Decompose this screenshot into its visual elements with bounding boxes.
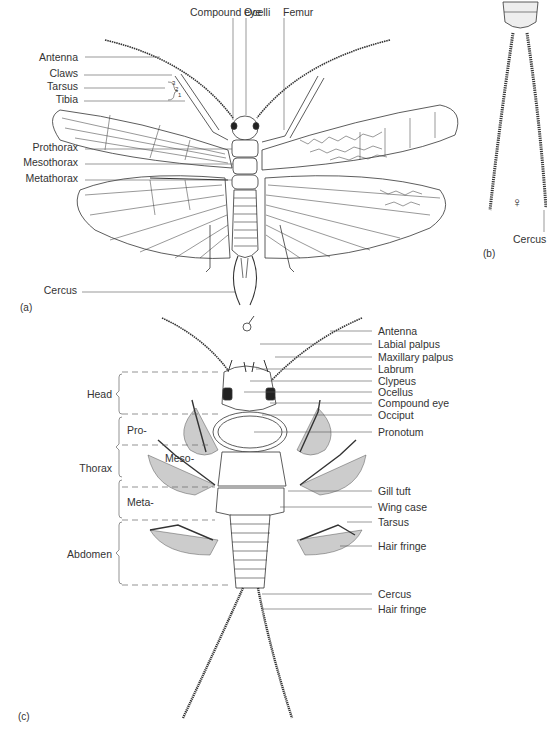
label-claws: Claws [49, 67, 78, 79]
region-abdomen: Abdomen [67, 548, 112, 560]
label-c-compound-eye: Compound eye [378, 397, 449, 409]
stonefly-diagram [0, 0, 547, 734]
metathorax [232, 175, 258, 189]
adult-male-drawing [53, 40, 458, 305]
antenna-left [105, 40, 233, 118]
hindwing-right [265, 176, 446, 259]
label-c-antenna: Antenna [378, 325, 417, 337]
label-maxillary-palpus: Maxillary palpus [378, 351, 453, 363]
label-cercus-a: Cercus [44, 284, 77, 296]
label-prothorax: Prothorax [32, 141, 78, 153]
region-thorax: Thorax [79, 462, 112, 474]
panel-tag-b: (b) [483, 248, 495, 259]
label-cercus-b: Cercus [513, 233, 546, 245]
nymph-abdomen [230, 515, 270, 588]
label-tibia: Tibia [56, 93, 78, 105]
nymph-cercus-left [183, 588, 243, 718]
label-tarsus: Tarsus [47, 80, 78, 92]
segment-meso: Meso- [165, 452, 194, 464]
label-c-tarsus: Tarsus [378, 516, 409, 528]
nymph-antenna-right [270, 318, 362, 382]
nymph-metathorax [216, 488, 284, 517]
label-ocelli: Ocelli [244, 6, 270, 18]
mesothorax [233, 158, 257, 174]
label-hair-fringe-cercus: Hair fringe [378, 603, 426, 615]
label-labrum: Labrum [378, 363, 414, 375]
label-occiput: Occiput [378, 409, 414, 421]
cercus-female-right [527, 33, 546, 208]
label-metathorax: Metathorax [25, 172, 78, 184]
male-symbol [243, 323, 251, 331]
abdomen [232, 190, 258, 258]
panel-tag-a: (a) [20, 302, 32, 313]
female-symbol: ♀ [512, 196, 523, 208]
cercus-male [233, 256, 256, 305]
label-antenna: Antenna [39, 51, 78, 63]
nymph-mesothorax [218, 452, 286, 486]
segment-pro: Pro- [127, 424, 147, 436]
label-gill-tuft: Gill tuft [378, 485, 411, 497]
label-wing-case: Wing case [378, 501, 427, 513]
nymph-cercus-right [258, 588, 292, 718]
label-mesothorax: Mesothorax [23, 156, 78, 168]
prothorax [232, 140, 258, 157]
cercus-female-left [490, 33, 513, 210]
panel-tag-c: (c) [18, 711, 30, 722]
label-pronotum: Pronotum [378, 426, 424, 438]
label-labial-palpus: Labial palpus [378, 338, 440, 350]
tarsus-segment-1: 1 [178, 92, 181, 98]
segment-meta: Meta- [127, 496, 154, 508]
foreleg-left [175, 74, 228, 140]
label-femur: Femur [283, 6, 313, 18]
label-c-cercus: Cercus [378, 588, 411, 600]
label-hair-fringe-leg: Hair fringe [378, 540, 426, 552]
nymph-drawing [148, 318, 366, 718]
region-head: Head [87, 388, 112, 400]
foreleg-right [262, 76, 324, 142]
